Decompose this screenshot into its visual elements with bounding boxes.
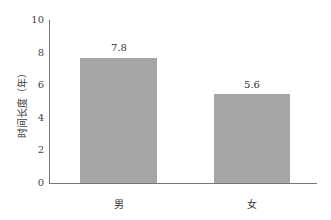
x-category-female: 女 — [232, 196, 272, 211]
y-axis-line — [49, 20, 50, 184]
y-tick-8: 8 — [28, 48, 44, 58]
y-tick-0: 0 — [28, 178, 44, 188]
y-tick-4: 4 — [28, 113, 44, 123]
y-tick-2: 2 — [28, 145, 44, 155]
x-axis-line — [49, 183, 317, 184]
bar-female-value-label: 5.6 — [222, 79, 282, 90]
y-tick-10: 10 — [28, 15, 44, 25]
y-tick-6: 6 — [28, 80, 44, 90]
bar-male-value-label: 7.8 — [89, 42, 149, 53]
y-axis-label: 时间长度（年） — [14, 58, 29, 148]
bar-female — [214, 94, 290, 183]
bar-male — [80, 58, 157, 183]
x-category-male: 男 — [99, 196, 139, 211]
